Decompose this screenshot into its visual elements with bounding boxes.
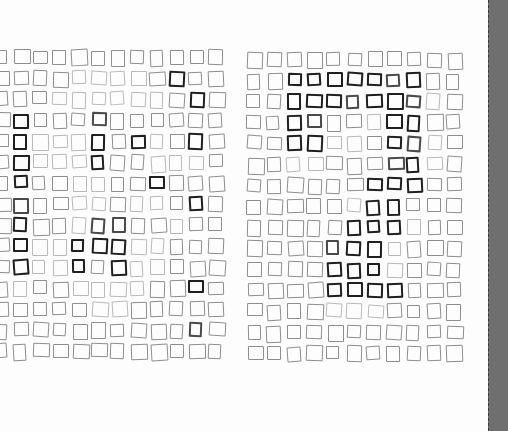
drawn-square bbox=[131, 302, 147, 319]
drawn-square bbox=[267, 52, 283, 68]
drawn-square bbox=[53, 344, 70, 358]
drawn-square bbox=[150, 218, 167, 234]
drawn-square bbox=[347, 52, 362, 66]
drawn-square bbox=[307, 241, 323, 257]
drawn-square bbox=[0, 302, 9, 317]
drawn-square bbox=[110, 323, 125, 337]
drawn-square bbox=[150, 92, 164, 109]
drawn-square bbox=[13, 49, 30, 65]
drawn-square bbox=[209, 92, 227, 108]
drawn-square bbox=[287, 219, 304, 236]
drawn-square bbox=[53, 197, 69, 210]
drawn-square bbox=[13, 322, 29, 336]
drawn-square bbox=[131, 154, 145, 171]
drawn-square bbox=[346, 136, 361, 153]
drawn-square bbox=[0, 324, 8, 340]
drawn-square bbox=[90, 217, 105, 234]
drawn-square bbox=[52, 302, 66, 316]
drawn-square bbox=[129, 261, 143, 278]
drawn-square bbox=[385, 325, 402, 341]
drawn-square bbox=[326, 303, 342, 318]
drawn-square bbox=[247, 282, 263, 296]
drawn-square bbox=[446, 282, 460, 298]
drawn-square bbox=[12, 259, 29, 276]
drawn-square bbox=[266, 325, 282, 342]
drawn-square bbox=[426, 303, 441, 320]
drawn-square bbox=[208, 322, 226, 337]
drawn-square bbox=[208, 282, 224, 296]
drawn-square bbox=[346, 262, 360, 278]
drawn-square bbox=[170, 259, 184, 274]
drawn-square bbox=[306, 198, 321, 214]
drawn-square bbox=[168, 71, 185, 87]
drawn-square bbox=[267, 136, 283, 150]
drawn-square bbox=[150, 301, 164, 318]
drawn-square bbox=[189, 260, 206, 277]
drawn-square bbox=[267, 304, 282, 321]
drawn-square bbox=[387, 157, 404, 171]
drawn-square bbox=[407, 219, 421, 235]
drawn-square bbox=[72, 303, 87, 317]
drawn-square bbox=[327, 220, 342, 236]
drawn-square bbox=[366, 345, 380, 360]
drawn-square bbox=[447, 325, 464, 339]
drawn-square bbox=[188, 71, 202, 85]
drawn-square bbox=[266, 115, 280, 129]
drawn-square bbox=[268, 282, 285, 299]
drawn-square bbox=[53, 72, 70, 88]
drawn-square bbox=[189, 344, 206, 359]
drawn-square bbox=[0, 175, 8, 190]
drawn-square bbox=[151, 113, 164, 127]
drawn-square bbox=[13, 281, 28, 298]
drawn-square bbox=[428, 220, 442, 236]
drawn-square bbox=[32, 280, 46, 294]
drawn-square bbox=[149, 176, 165, 189]
drawn-square bbox=[366, 199, 381, 216]
drawn-square bbox=[13, 302, 28, 316]
drawn-square bbox=[266, 94, 281, 110]
drawn-square bbox=[247, 262, 262, 278]
drawn-square bbox=[267, 156, 282, 171]
drawn-square bbox=[188, 217, 203, 232]
drawn-square bbox=[130, 91, 145, 107]
drawn-square bbox=[247, 220, 261, 237]
drawn-square bbox=[91, 155, 105, 171]
drawn-square bbox=[208, 259, 226, 276]
drawn-square bbox=[188, 113, 204, 129]
drawn-square bbox=[13, 155, 30, 172]
drawn-square bbox=[131, 239, 148, 255]
drawn-square bbox=[248, 345, 264, 359]
drawn-square bbox=[246, 199, 261, 214]
drawn-square bbox=[248, 157, 265, 174]
drawn-square bbox=[72, 70, 87, 85]
drawn-square bbox=[0, 154, 9, 169]
drawn-square bbox=[368, 304, 385, 318]
drawn-square bbox=[169, 92, 186, 108]
drawn-square bbox=[326, 52, 340, 66]
drawn-square bbox=[366, 324, 382, 339]
drawn-square bbox=[427, 198, 441, 212]
drawn-square bbox=[13, 344, 27, 361]
drawn-square bbox=[287, 303, 301, 319]
drawn-square bbox=[407, 115, 421, 132]
drawn-square bbox=[286, 51, 301, 67]
drawn-square bbox=[91, 301, 109, 317]
drawn-square bbox=[14, 71, 29, 86]
drawn-square bbox=[326, 240, 339, 256]
drawn-square bbox=[12, 217, 27, 233]
drawn-square bbox=[71, 113, 86, 127]
drawn-square bbox=[110, 154, 126, 171]
drawn-square bbox=[51, 92, 66, 106]
drawn-square bbox=[267, 262, 281, 276]
drawn-square bbox=[150, 196, 163, 210]
drawn-square bbox=[447, 52, 462, 69]
drawn-square bbox=[32, 91, 48, 105]
drawn-square bbox=[33, 198, 47, 214]
drawn-square bbox=[150, 323, 167, 340]
drawn-square bbox=[130, 281, 145, 296]
drawn-square bbox=[387, 51, 402, 66]
drawn-square bbox=[52, 239, 66, 256]
drawn-square bbox=[150, 259, 165, 275]
drawn-square bbox=[447, 240, 463, 257]
drawn-square bbox=[188, 133, 203, 150]
